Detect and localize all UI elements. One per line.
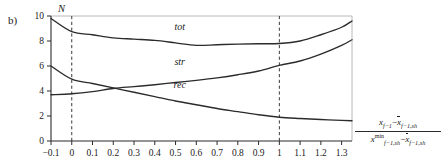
x-tick-label: 1.2 — [315, 148, 327, 158]
series-curve-rec — [51, 66, 352, 121]
x-tick-label: 0.2 — [107, 148, 119, 158]
den-sub-1: f−1,sh — [384, 138, 400, 145]
x-tick-label: 1.1 — [294, 148, 306, 158]
x-tick-label: 0.6 — [190, 148, 202, 158]
num-var-x2: x — [397, 117, 401, 127]
num-sub-2: f−1,sh — [401, 122, 417, 129]
x-tick-label: 0.9 — [253, 148, 265, 158]
x-tick-label: 0.8 — [232, 148, 244, 158]
x-axis-label-numerator: xf−1−xf−1,sh — [355, 117, 441, 130]
chart-figure: b) 0246810N−0.100.10.20.30.40.50.60.70.8… — [0, 0, 443, 167]
y-tick-label: 10 — [35, 11, 45, 21]
num-sub-1: f−1 — [383, 122, 392, 129]
y-tick-label: 8 — [39, 36, 44, 46]
x-axis-label-fraction: xf−1−xf−1,sh xminf−1,sh−xf−1,sh — [355, 117, 441, 146]
x-tick-label: 1.3 — [336, 148, 348, 158]
y-axis-title: N — [57, 3, 66, 14]
x-tick-label: 1 — [277, 148, 282, 158]
x-axis-label-denominator: xminf−1,sh−xf−1,sh — [355, 133, 441, 147]
x-tick-label: 0 — [69, 148, 74, 158]
y-tick-label: 4 — [39, 86, 44, 96]
x-tick-label: 0.5 — [170, 148, 182, 158]
x-tick-label: 0.4 — [149, 148, 161, 158]
den-sup-min: min — [375, 133, 384, 139]
series-curve-str — [51, 40, 352, 95]
y-tick-label: 2 — [39, 111, 44, 121]
series-label-tot: tot — [174, 21, 185, 32]
x-tick-label: 0.1 — [87, 148, 99, 158]
fraction-bar — [355, 131, 441, 132]
x-tick-label: 0.3 — [128, 148, 140, 158]
den-var-x2: x — [405, 134, 409, 144]
series-label-rec: rec — [174, 79, 187, 90]
series-label-str: str — [174, 56, 185, 67]
x-tick-label: −0.1 — [42, 148, 59, 158]
y-tick-label: 6 — [39, 61, 44, 71]
series-curve-tot — [51, 19, 352, 46]
x-tick-label: 0.7 — [211, 148, 223, 158]
y-tick-label: 0 — [39, 136, 44, 146]
den-sub-2: f−1,sh — [409, 138, 425, 145]
